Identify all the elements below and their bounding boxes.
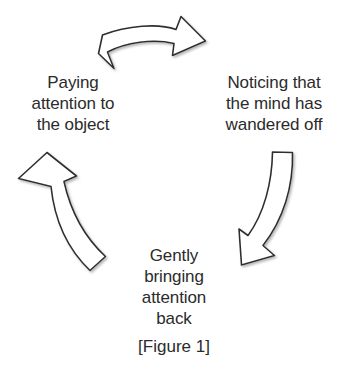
arrow-left-gently-to-paying [19, 153, 106, 271]
figure-container: Paying attention to the object Noticing … [0, 0, 348, 379]
arrow-right-noticing-to-gently [239, 152, 293, 265]
figure-caption: [Figure 1] [0, 336, 348, 357]
arrow-top-paying-to-noticing [99, 17, 206, 69]
cycle-node-paying-attention: Paying attention to the object [8, 72, 138, 135]
cycle-node-noticing-mind-wandered: Noticing that the mind has wandered off [204, 72, 344, 135]
cycle-node-gently-bringing-back: Gently bringing attention back [112, 245, 236, 329]
